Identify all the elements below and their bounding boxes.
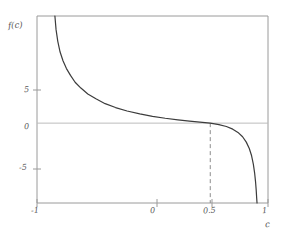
x-tick-label-0: 0	[150, 206, 156, 215]
x-tick-label-minus1: -1	[31, 206, 39, 216]
y-tick-label-minus5: -5	[19, 163, 27, 173]
function-curve	[55, 16, 257, 203]
plot-frame	[37, 16, 268, 203]
y-axis-label: f(c)	[8, 20, 23, 31]
x-tick-label-1: 1	[262, 206, 268, 215]
x-axis-label: c	[265, 219, 270, 229]
x-tick-label-05: 0.5	[203, 206, 216, 216]
y-tick-label-0: 0	[24, 122, 30, 131]
axes-frame	[37, 16, 268, 203]
y-tick-label-5: 5	[24, 85, 30, 94]
figure-container: f(c) 5 0 -5 -1 0 0.5 1 c	[0, 0, 291, 237]
plot-canvas	[0, 0, 291, 237]
tick-marks	[33, 90, 268, 207]
